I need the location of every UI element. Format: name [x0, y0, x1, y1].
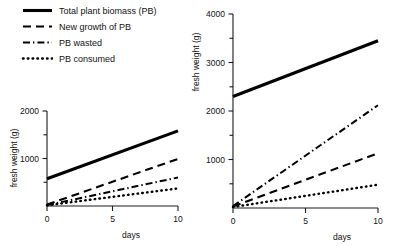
- right-panel-x-tick-label-10: 10: [373, 216, 383, 226]
- right-panel-x-axis-title: days: [333, 232, 351, 242]
- left-panel-x-tick-label-10: 10: [173, 214, 183, 224]
- two-panel-line-chart: Total plant biomass (PB) New growth of P…: [0, 0, 393, 246]
- legend-item-label: PB consumed: [59, 54, 115, 64]
- series-new-growth: [47, 159, 178, 205]
- left-panel-x-tick-label-5: 5: [110, 214, 115, 224]
- right-panel-y-tick-label-1000: 1000: [206, 155, 225, 165]
- series-pb-wasted: [233, 105, 378, 206]
- right-panel-x-tick-label-5: 5: [303, 216, 308, 226]
- right-panel-x-ticks: [233, 208, 378, 213]
- left-panel-y-ticks: [43, 111, 48, 182]
- series-new-growth: [233, 153, 378, 206]
- left-panel-x-axis-title: days: [122, 230, 140, 240]
- left-panel: 2000 1000 0 5 10 fresh weight (g) days: [9, 106, 183, 240]
- left-panel-y-axis-title: fresh weight (g): [9, 129, 19, 188]
- series-pb-consumed: [233, 185, 378, 207]
- right-panel-y-ticks: [229, 14, 234, 184]
- right-panel-y-tick-label-2000: 2000: [206, 106, 225, 116]
- right-panel-y-axis-title: fresh weight (g): [191, 33, 201, 92]
- right-panel-y-tick-label-3000: 3000: [206, 58, 225, 68]
- right-panel-y-tick-label-4000: 4000: [206, 9, 225, 19]
- right-panel-series: [233, 41, 378, 207]
- legend-item-pb-consumed: PB consumed: [23, 54, 115, 64]
- left-panel-series: [47, 131, 178, 205]
- right-panel-x-tick-label-0: 0: [231, 216, 236, 226]
- left-panel-y-tick-label-2000: 2000: [20, 106, 39, 116]
- legend-item-label: New growth of PB: [59, 22, 131, 32]
- series-pb-consumed: [47, 188, 178, 205]
- legend-item-pb-wasted: PB wasted: [23, 38, 102, 48]
- legend-item-total-plant-biomass: Total plant biomass (PB): [23, 6, 157, 16]
- right-panel: 4000 3000 2000 1000 0 5 10 fresh weight …: [191, 9, 383, 242]
- legend-item-label: PB wasted: [59, 38, 102, 48]
- left-panel-x-ticks: [47, 206, 178, 211]
- legend-item-label: Total plant biomass (PB): [59, 6, 157, 16]
- series-total-plant-biomass: [47, 131, 178, 179]
- left-panel-x-tick-label-0: 0: [45, 214, 50, 224]
- figure-container: Total plant biomass (PB) New growth of P…: [0, 0, 393, 246]
- legend: Total plant biomass (PB) New growth of P…: [23, 6, 157, 64]
- legend-item-new-growth: New growth of PB: [23, 22, 131, 32]
- left-panel-y-tick-label-1000: 1000: [20, 154, 39, 164]
- series-total-plant-biomass: [233, 41, 378, 97]
